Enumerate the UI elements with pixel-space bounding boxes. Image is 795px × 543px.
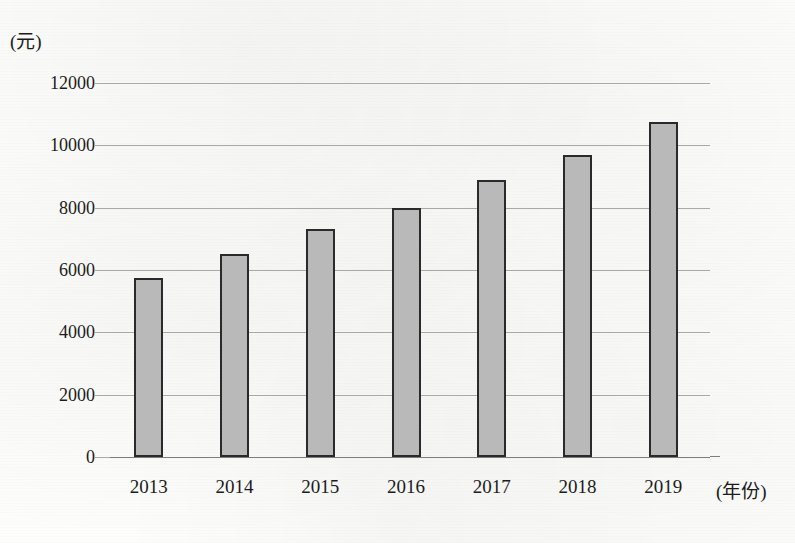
y-axis-tick-label: 4000 [59,322,95,343]
gridline [110,457,710,458]
gridline [110,83,710,84]
bar [392,208,421,457]
x-axis-tick-label: 2018 [558,476,596,498]
x-axis-tick-label: 2014 [216,476,254,498]
axis-line-extension [710,456,720,457]
y-axis-tick-labels: 120001000080006000400020000 [0,83,95,457]
gridline-stub [94,145,110,146]
x-axis-tick-label: 2019 [644,476,682,498]
bar-chart: (元) 120001000080006000400020000 20132014… [0,0,795,543]
x-axis-tick-label: 2013 [130,476,168,498]
bar [306,229,335,457]
y-axis-tick-label: 12000 [50,73,95,94]
gridline-stub [94,395,110,396]
y-axis-tick-label: 6000 [59,260,95,281]
y-axis-unit-label: (元) [10,26,42,53]
x-axis-unit-label: (年份) [716,476,767,503]
gridline-stub [94,457,110,458]
plot-area [110,83,710,457]
gridline-stub [94,208,110,209]
x-axis-tick-label: 2016 [387,476,425,498]
bar [649,122,678,457]
gridline-stub [94,83,110,84]
gridline [110,145,710,146]
y-axis-tick-label: 8000 [59,197,95,218]
bar [477,180,506,457]
bar [220,254,249,457]
x-axis-tick-label: 2017 [473,476,511,498]
y-axis-tick-label: 10000 [50,135,95,156]
gridline-stub [94,270,110,271]
bar [134,278,163,457]
bar [563,155,592,457]
x-axis-tick-label: 2015 [301,476,339,498]
y-axis-tick-label: 2000 [59,384,95,405]
gridline-stub [94,332,110,333]
